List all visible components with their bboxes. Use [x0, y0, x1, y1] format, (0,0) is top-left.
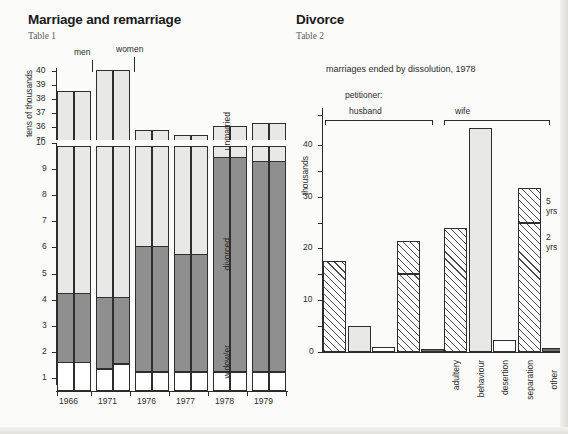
left-lower-tick-9: 9 [42, 163, 47, 173]
segment-label-widowed: widow/er [222, 345, 232, 379]
left-lower-tick-6: 6 [42, 241, 47, 251]
bar-husband-adultery [323, 261, 346, 352]
left-x-tick-1966: 1966 [59, 396, 78, 406]
bracket-wife-left [444, 120, 445, 125]
women-leader-line [134, 57, 135, 72]
left-lower-tick-5: 5 [42, 268, 47, 278]
bar-wife-separation-2yrs [518, 223, 541, 352]
right-tick-20: 20 [303, 242, 312, 252]
left-x-tick-1971: 1971 [98, 396, 117, 406]
left-chart-title: Marriage and remarriage [28, 12, 181, 27]
upper-bar-1971-men [96, 70, 113, 146]
right-x-axis [322, 352, 566, 353]
bar-1976-men-widowed [135, 372, 152, 391]
right-chart-table-label: Table 2 [296, 31, 344, 41]
annotation-5yrs: 5 yrs [546, 196, 557, 216]
page-edge-bottom [0, 427, 568, 434]
left-upper-tick-40: 40 [36, 65, 45, 75]
right-y-axis-label: thousands [300, 156, 310, 195]
bar-1976-men-divorced [135, 246, 152, 372]
bar-1971-men-divorced [96, 297, 113, 369]
bracket-husband-top [325, 120, 433, 121]
group-label-husband: husband [349, 106, 382, 116]
bracket-husband-left [325, 120, 326, 125]
right-x-label-other: other [549, 370, 559, 389]
right-chart-header: Divorce Table 2 [296, 12, 344, 41]
bar-1976-women-divorced [152, 246, 169, 372]
bar-1976-men-unmarried [135, 146, 152, 247]
bar-1966-men-divorced [57, 293, 74, 363]
bar-1977-men-divorced [174, 254, 191, 372]
left-lower-tick-7: 7 [42, 215, 47, 225]
bar-1971-women-unmarried [113, 146, 130, 298]
right-tick-30: 30 [303, 191, 312, 201]
left-chart-table-label: Table 1 [28, 31, 181, 41]
bar-1979-men-divorced [252, 161, 269, 372]
bracket-husband-right [432, 120, 433, 125]
left-lower-tick-10: 10 [36, 137, 45, 147]
annotation-2yrs: 2 yrs [546, 232, 557, 252]
bar-1966-men-widowed [57, 362, 74, 391]
bar-1966-women-divorced [74, 293, 91, 363]
right-tick-40: 40 [303, 139, 312, 149]
upper-bar-1971-women [113, 70, 130, 146]
left-lower-tick-1: 1 [42, 372, 47, 382]
segment-label-divorced: divorced [222, 238, 232, 270]
bar-1977-women-widowed [191, 372, 208, 391]
bar-1979-women-widowed [269, 372, 286, 391]
bar-1966-men-unmarried [57, 146, 74, 294]
right-x-label-behaviour: behaviour [476, 360, 486, 397]
right-chart-title: Divorce [296, 12, 344, 27]
bar-1976-women-unmarried [152, 146, 169, 247]
group-label-wife: wife [455, 106, 470, 116]
bar-1977-women-unmarried [191, 146, 208, 255]
series-label-women: women [116, 44, 143, 54]
left-lower-tick-8: 8 [42, 189, 47, 199]
bracket-wife-right [549, 120, 550, 125]
bar-1979-men-unmarried [252, 146, 269, 162]
left-x-tick-1978: 1978 [215, 396, 234, 406]
page-canvas: Marriage and remarriage Table 1 tens of … [0, 0, 568, 434]
series-label-men: men [74, 47, 91, 57]
upper-bar-1966-women [74, 91, 91, 146]
bar-wife-separation-5yrs [518, 188, 541, 223]
bar-1971-men-unmarried [96, 146, 113, 298]
bar-1971-women-divorced [113, 297, 130, 364]
upper-bar-1966-men [57, 91, 74, 146]
left-lower-tick-3: 3 [42, 320, 47, 330]
right-x-label-adultery: adultery [451, 360, 461, 390]
bar-1977-men-unmarried [174, 146, 191, 255]
right-tick-10: 10 [303, 294, 312, 304]
left-upper-tick-37: 37 [36, 107, 45, 117]
left-lower-tick-2: 2 [42, 346, 47, 356]
bar-wife-desertion [493, 340, 516, 352]
bar-1977-men-widowed [174, 372, 191, 391]
left-y-axis-label: tens of thousands [24, 70, 34, 137]
bar-1978-women-divorced [230, 157, 247, 372]
left-lower-tick-4: 4 [42, 294, 47, 304]
right-x-label-separation: separation [525, 360, 535, 400]
right-x-label-desertion: desertion [500, 360, 510, 395]
bar-1979-men-widowed [252, 372, 269, 391]
bar-1977-women-divorced [191, 254, 208, 372]
left-upper-tick-36: 36 [36, 121, 45, 131]
petitioner-label: petitioner: [345, 90, 382, 100]
segment-label-unmarried: unmarried [222, 112, 232, 150]
right-tick-0: 0 [309, 346, 314, 356]
bar-husband-behaviour [348, 326, 371, 352]
bar-wife-adultery [444, 228, 467, 352]
right-chart-caption: marriages ended by dissolution, 1978 [326, 64, 476, 74]
men-leader-line [92, 60, 93, 72]
bar-husband-separation-2yrs [397, 274, 420, 352]
bar-husband-separation-5yrs [397, 241, 420, 274]
bar-1979-women-unmarried [269, 146, 286, 162]
left-x-tick-1976: 1976 [137, 396, 156, 406]
bar-1971-women-widowed [113, 364, 130, 391]
left-x-tick-1979: 1979 [254, 396, 273, 406]
bar-wife-behaviour [469, 128, 492, 352]
left-x-tick-1977: 1977 [176, 396, 195, 406]
left-upper-tick-39: 39 [36, 79, 45, 89]
left-chart-header: Marriage and remarriage Table 1 [28, 12, 181, 41]
bracket-wife-top [444, 120, 550, 121]
page-edge-right [560, 0, 568, 434]
